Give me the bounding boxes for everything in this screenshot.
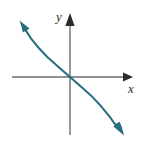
y-axis-arrow-icon bbox=[65, 13, 74, 26]
x-axis-label: x bbox=[128, 82, 134, 95]
curve-start-arrow-icon bbox=[20, 21, 30, 33]
graph-figure: y x bbox=[0, 0, 145, 146]
y-axis-label: y bbox=[56, 10, 62, 23]
coordinate-plot bbox=[0, 0, 145, 146]
function-curve bbox=[25, 29, 119, 130]
